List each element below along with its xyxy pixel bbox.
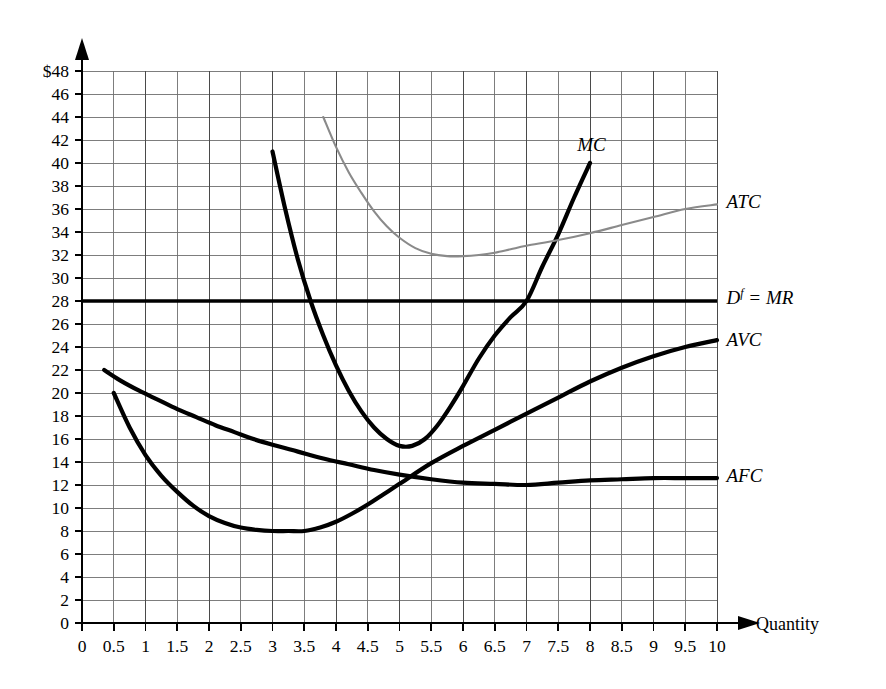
x-tick-label: 4 (332, 636, 341, 656)
y-tick-label: 34 (52, 222, 70, 242)
y-tick-label: 42 (52, 130, 70, 150)
tick-marks (75, 71, 717, 631)
x-tick-label: 1 (141, 636, 150, 656)
y-tick-label: 24 (52, 337, 70, 357)
y-tick-label: 2 (60, 590, 69, 610)
curve-label-avc: AVC (725, 329, 762, 350)
y-tick-label: 8 (60, 521, 69, 541)
y-axis-tick-labels: 0246810121416182022242628303234363840424… (43, 61, 70, 633)
x-axis-title: Quantity (756, 614, 819, 634)
y-tick-label: 28 (52, 291, 70, 311)
y-tick-label: 26 (52, 314, 70, 334)
y-tick-label: 36 (52, 199, 70, 219)
axes (75, 38, 760, 630)
x-tick-label: 2.5 (230, 636, 252, 656)
x-tick-label: 9 (649, 636, 658, 656)
x-tick-label: 6 (459, 636, 468, 656)
y-tick-label: 20 (52, 383, 70, 403)
y-tick-label: 22 (52, 360, 70, 380)
chart-canvas: 0246810121416182022242628303234363840424… (0, 0, 886, 689)
y-tick-label: 6 (60, 544, 69, 564)
x-tick-label: 0.5 (103, 636, 125, 656)
x-tick-label: 7.5 (547, 636, 569, 656)
y-tick-label: 16 (52, 429, 70, 449)
x-tick-label: 8 (586, 636, 595, 656)
y-tick-label: 32 (52, 245, 70, 265)
x-tick-label: 0 (78, 636, 87, 656)
y-tick-label: 44 (52, 107, 70, 127)
x-tick-label: 4.5 (357, 636, 379, 656)
x-tick-label: 6.5 (484, 636, 506, 656)
y-tick-label: 0 (60, 613, 69, 633)
y-tick-label: 46 (52, 84, 70, 104)
curve-label-atc: ATC (725, 191, 761, 212)
x-tick-label: 3 (268, 636, 277, 656)
x-tick-label: 1.5 (166, 636, 188, 656)
y-tick-label: $48 (43, 61, 70, 81)
x-tick-label: 5.5 (420, 636, 442, 656)
y-tick-label: 12 (52, 475, 70, 495)
x-tick-label: 10 (708, 636, 726, 656)
x-tick-label: 5 (395, 636, 404, 656)
y-tick-label: 10 (52, 498, 70, 518)
y-tick-label: 4 (60, 567, 69, 587)
curve-afc (104, 370, 717, 485)
y-tick-label: 40 (52, 153, 70, 173)
x-tick-label: 2 (205, 636, 214, 656)
curve-atc (323, 117, 717, 256)
y-tick-label: 30 (52, 268, 70, 288)
x-axis-tick-labels: 00.511.522.533.544.555.566.577.588.599.5… (78, 636, 726, 656)
x-tick-label: 7 (522, 636, 531, 656)
curve-label-df-mr: Df = MR (726, 286, 794, 308)
economics-cost-curves-chart: 0246810121416182022242628303234363840424… (0, 0, 886, 689)
y-tick-label: 14 (52, 452, 70, 472)
x-tick-label: 9.5 (674, 636, 696, 656)
curve-label-mc: MC (576, 134, 606, 155)
curve-avc (114, 340, 717, 531)
y-tick-label: 18 (52, 406, 70, 426)
x-tick-label: 8.5 (611, 636, 633, 656)
y-tick-label: 38 (52, 176, 70, 196)
x-tick-label: 3.5 (293, 636, 315, 656)
curve-label-afc: AFC (725, 465, 763, 486)
